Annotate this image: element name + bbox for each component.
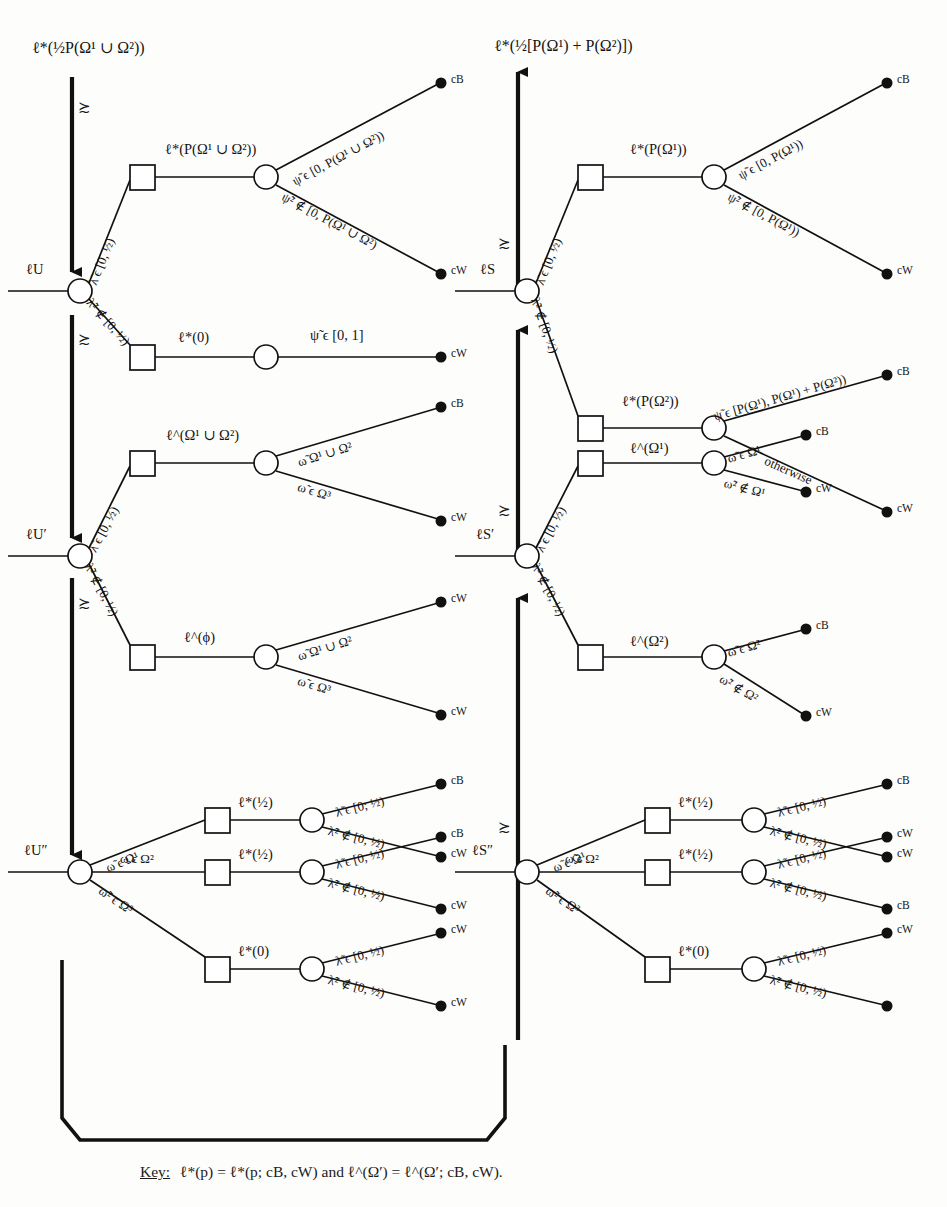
- value-lU1-up: ℓ^(Ω¹ ∪ Ω²): [166, 428, 239, 443]
- edge-label-lU2-b2: ω̃ ϵ Ω²: [120, 852, 154, 865]
- terminal-lU1-down-low: cW: [451, 706, 467, 718]
- terminal-lU2-1-low: cW: [451, 848, 467, 860]
- terminal-lS2-2-high: cW: [897, 828, 913, 840]
- terminal-lS-up-low: cW: [897, 265, 913, 277]
- terminal-lU2-3-high: cW: [451, 924, 467, 936]
- terminal-lS-up-high: cB: [897, 74, 910, 86]
- terminal-lS1-down-low: cW: [816, 707, 832, 719]
- root-label-lU: ℓU: [26, 262, 43, 277]
- tree-lS-dprime: [455, 779, 893, 1012]
- value-lU2-3: ℓ*(0): [238, 944, 269, 959]
- tree-lS-prime: [455, 430, 812, 722]
- value-lS1-down: ℓ^(Ω²): [630, 634, 669, 649]
- terminal-lU-up-low: cW: [451, 265, 467, 277]
- key-label: Key:: [140, 1163, 170, 1180]
- key-line: Key: ℓ*(p) = ℓ*(p; cB, cW) and ℓ^(Ω′) = …: [140, 1163, 503, 1181]
- pref-symbol-left-3: ≿: [78, 596, 91, 611]
- terminal-lS-down-high: cB: [897, 366, 910, 378]
- pref-symbol-right-2: ≿: [498, 503, 511, 518]
- value-lS2-2: ℓ*(½): [678, 847, 713, 862]
- value-lU1-down: ℓ^(ϕ): [184, 630, 215, 645]
- terminal-lU2-1-high: cB: [451, 775, 464, 787]
- edge-label-lS2-b2: ω̃ ϵ Ω²: [565, 852, 599, 865]
- terminal-lS1-up-low: cW: [816, 483, 832, 495]
- root-label-lS-dprime: ℓS″: [472, 843, 493, 858]
- terminal-lS-down-low: cW: [897, 503, 913, 515]
- pref-symbol-right-1: ≿: [498, 236, 511, 251]
- terminal-lU1-up-low: cW: [451, 512, 467, 524]
- value-lS-up: ℓ*(P(Ω¹)): [630, 142, 687, 157]
- value-lS1-up: ℓ^(Ω¹): [630, 441, 669, 456]
- terminal-lU2-3-low: cW: [451, 997, 467, 1009]
- terminal-lU-up-high: cB: [451, 74, 464, 86]
- pref-symbol-left-1: ≿: [78, 100, 91, 115]
- terminal-lU2-2-high: cB: [451, 828, 464, 840]
- left-top-value: ℓ*(½P(Ω¹ ∪ Ω²)): [32, 40, 145, 56]
- terminal-lS1-down-high: cB: [816, 620, 829, 632]
- terminal-lU2-2-low: cW: [451, 900, 467, 912]
- terminal-lS2-1-high: cB: [897, 775, 910, 787]
- pref-symbol-left-2: ≿: [78, 332, 91, 347]
- value-lU2-1: ℓ*(½): [238, 795, 273, 810]
- value-lS-down: ℓ*(P(Ω²)): [622, 394, 679, 409]
- terminal-lU1-up-high: cB: [451, 398, 464, 410]
- value-lU-up: ℓ*(P(Ω¹ ∪ Ω²)): [165, 142, 256, 157]
- value-lS2-3: ℓ*(0): [678, 944, 709, 959]
- right-top-value: ℓ*(½[P(Ω¹) + P(Ω²)]): [494, 38, 632, 54]
- tree-graphics: [0, 0, 947, 1207]
- key-body: ℓ*(p) = ℓ*(p; cB, cW) and ℓ^(Ω′) = ℓ^(Ω′…: [180, 1163, 503, 1180]
- terminal-lS1-up-high: cB: [816, 426, 829, 438]
- root-label-lS: ℓS: [480, 262, 495, 277]
- root-label-lS-prime: ℓS′: [476, 527, 494, 542]
- figure-canvas: ℓ*(½P(Ω¹ ∪ Ω²)) ℓ*(½[P(Ω¹) + P(Ω²)]) ≿ ≿…: [0, 0, 947, 1207]
- terminal-lU1-down-high: cW: [451, 593, 467, 605]
- value-lU2-2: ℓ*(½): [238, 847, 273, 862]
- terminal-lU-down: cW: [451, 348, 467, 360]
- pref-symbol-right-3: ≿: [498, 820, 511, 835]
- root-label-lU-dprime: ℓU″: [24, 843, 47, 858]
- terminal-lS2-1-low: cW: [897, 848, 913, 860]
- root-label-lU-prime: ℓU′: [26, 527, 47, 542]
- value-lS2-1: ℓ*(½): [678, 795, 713, 810]
- terminal-lS2-3-high: cW: [897, 924, 913, 936]
- terminal-lS2-2-low: cB: [897, 900, 910, 912]
- outcome-label-lU-down: ψ̃ ϵ [0, 1]: [310, 328, 364, 343]
- bottom-bracket: [62, 960, 505, 1140]
- value-lU-down: ℓ*(0): [178, 330, 209, 345]
